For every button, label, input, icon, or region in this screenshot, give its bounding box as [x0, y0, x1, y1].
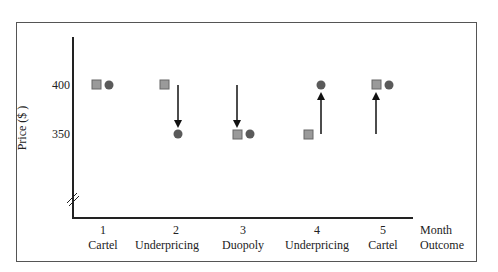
outcome-5: Cartel	[368, 238, 397, 252]
x-label-outcome: Outcome	[420, 238, 464, 252]
square-marker	[233, 130, 242, 139]
arrowhead-down-icon	[174, 120, 182, 128]
circle-marker	[174, 130, 183, 139]
y-tick-400: 400	[52, 78, 70, 92]
x-tick-5: 5	[380, 223, 386, 237]
x-tick-1: 1	[100, 223, 106, 237]
square-marker	[92, 80, 101, 89]
outcome-4: Underpricing	[285, 238, 349, 252]
outcome-2: Underpricing	[135, 238, 199, 252]
square-marker	[372, 80, 381, 89]
x-tick-2: 2	[173, 223, 179, 237]
square-marker	[160, 80, 169, 89]
x-tick-3: 3	[240, 223, 246, 237]
x-tick-4: 4	[314, 223, 320, 237]
y-axis-label: Price ($ )	[15, 106, 30, 151]
circle-marker	[105, 81, 114, 90]
arrowhead-down-icon	[233, 120, 241, 128]
arrowhead-up-icon	[317, 92, 325, 100]
y-tick-350: 350	[52, 127, 70, 141]
outcome-3: Duopoly	[222, 238, 264, 252]
square-marker	[304, 130, 313, 139]
circle-marker	[317, 81, 326, 90]
arrowhead-up-icon	[372, 92, 380, 100]
circle-marker	[246, 130, 255, 139]
outcome-1: Cartel	[88, 238, 117, 252]
circle-marker	[385, 81, 394, 90]
x-label-month: Month	[420, 223, 452, 237]
